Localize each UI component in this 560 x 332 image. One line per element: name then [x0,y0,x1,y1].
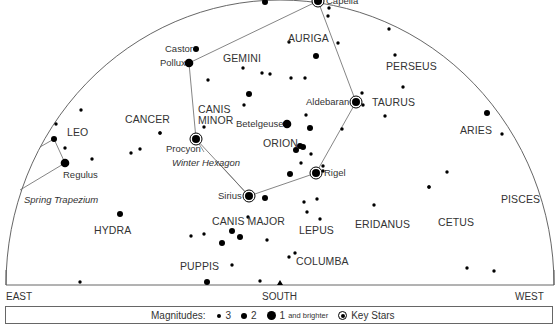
constellation-label: HYDRA [94,225,131,236]
star-icon [393,53,396,56]
star-icon [484,110,490,116]
constellation-label: LEPUS [299,225,334,236]
constellation-label: PISCES [501,194,540,205]
star-label-aldebaran: Aldebaran [306,97,349,107]
asterism-spring-trapezium [20,139,65,190]
constellation-label: ARIES [460,125,492,136]
star-icon [304,113,307,116]
star-icon [206,78,209,81]
constellation-label: PUPPIS [180,261,219,272]
star-icon [79,108,82,111]
star-icon [327,6,330,9]
direction-east: EAST [6,291,32,302]
mag-2-dot-icon [241,313,247,319]
star-icon [158,131,161,134]
star-icon [229,228,235,234]
constellation-label: CANCER [125,114,170,125]
constellation-label: COLUMBA [296,256,349,267]
legend-key-stars: Key Stars [338,310,394,321]
star-icon [492,269,495,272]
key-star-icon [338,311,347,320]
constellation-label: CANIS MAJOR [212,216,285,227]
star-icon [193,46,199,52]
star-icon [313,53,319,59]
direction-west: WEST [515,291,544,302]
star-label-capella: Capella [326,0,358,6]
star-icon [283,120,292,129]
star-label-betelgeuse: Betelgeuse [236,119,284,129]
star-icon [54,122,57,125]
constellation-label: GEMINI [223,53,261,64]
star-icon [465,266,468,269]
star-icon [287,255,290,258]
star-icon [336,41,339,44]
star-icon [289,76,292,79]
star-icon [117,211,123,217]
star-icon [242,103,245,106]
star-icon [500,132,503,135]
key-star-icon [352,98,360,106]
star-icon [138,147,141,150]
constellation-label: AURIGA [288,33,329,44]
star-icon [262,0,268,5]
star-icon [305,210,308,213]
star-icon [340,127,343,130]
constellation-label: TAURUS [372,97,415,108]
star-label-regulus: Regulus [63,170,98,180]
legend-mag-2: 2 [241,310,257,321]
star-icon [307,125,313,131]
constellation-label: CETUS [438,217,474,228]
star-icon [61,159,70,168]
star-icon [241,66,244,69]
star-icon [445,170,448,173]
key-star-icon [192,135,200,143]
star-label-pollux: Pollux [160,58,186,68]
mag-3-dot-icon [217,314,221,318]
star-icon [268,72,271,75]
star-icon [303,76,306,79]
star-icon [258,279,261,282]
key-star-icon [245,192,253,200]
star-icon [63,146,66,149]
direction-south: SOUTH [262,291,297,302]
constellation-label: LEO [67,127,88,138]
star-icon [129,151,132,154]
star-icon [202,232,205,235]
star-icon [315,197,318,200]
star-label-rigel: Rigel [324,168,346,178]
star-icon [383,114,386,117]
star-icon [387,27,390,30]
star-icon [309,152,312,155]
star-icon [360,91,363,94]
star-icon [326,14,329,17]
star-icon [318,217,321,220]
legend-title: Magnitudes: [151,310,205,321]
key-star-icon [312,169,320,177]
star-icon [78,280,81,283]
star-chart [0,0,560,332]
star-icon [287,171,293,177]
star-icon [189,234,192,237]
constellation-label: PERSEUS [386,61,437,72]
magnitude-legend: Magnitudes: 3 2 1 and brighter Key Stars [5,306,553,324]
star-icon [372,203,375,206]
constellation-label: MINOR [198,115,234,126]
asterism-label: Spring Trapezium [24,195,98,205]
constellation-label: CANIS [198,104,231,115]
star-icon [246,91,252,97]
star-icon [90,157,93,160]
star-label-sirius: Sirius [218,191,242,201]
legend-mag-3: 3 [217,310,231,321]
south-marker-icon [277,280,283,285]
star-icon [265,238,268,241]
constellation-label: ERIDANUS [355,219,410,230]
star-icon [302,200,305,203]
star-label-castor: Castor [165,44,193,54]
star-label-procyon: Procyon [166,144,201,154]
star-icon [204,279,210,285]
mag-1-dot-icon [267,311,276,320]
star-icon [237,234,243,240]
star-icon [219,240,225,246]
star-icon [299,161,302,164]
constellation-label: ORION [263,138,298,149]
